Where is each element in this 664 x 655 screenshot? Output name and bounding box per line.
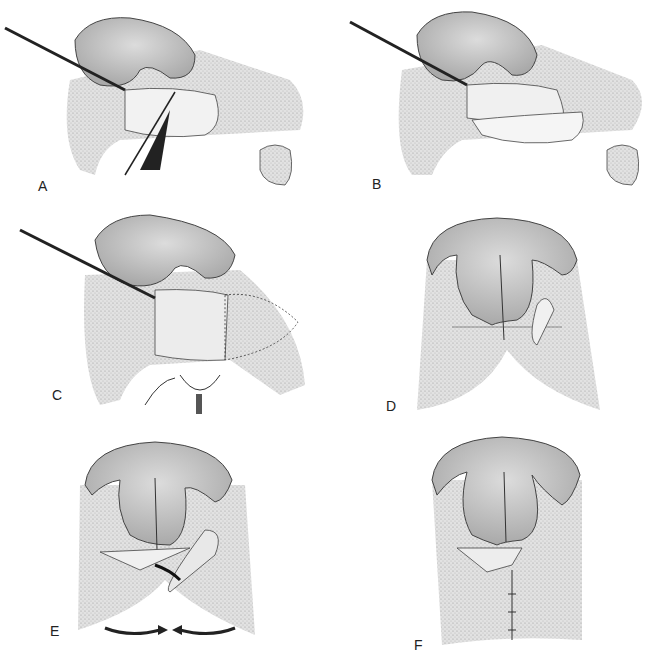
panel-a-illustration <box>0 0 332 210</box>
panel-f-illustration <box>332 430 664 655</box>
panel-b-illustration <box>332 0 664 210</box>
panel-label: B <box>372 176 381 192</box>
panel-a: A <box>0 0 332 210</box>
panel-d-illustration <box>332 210 664 430</box>
panel-label: E <box>50 623 59 639</box>
panel-label: F <box>414 637 423 653</box>
panel-e-illustration <box>0 430 332 655</box>
panel-label: D <box>386 398 396 414</box>
panel-c-illustration <box>0 210 332 430</box>
panel-c: C <box>0 210 332 430</box>
panel-f: F <box>332 430 664 655</box>
panel-label: A <box>38 178 47 194</box>
panel-d: D <box>332 210 664 430</box>
panel-b: B <box>332 0 664 210</box>
panel-label: C <box>52 387 62 403</box>
panel-e: E <box>0 430 332 655</box>
